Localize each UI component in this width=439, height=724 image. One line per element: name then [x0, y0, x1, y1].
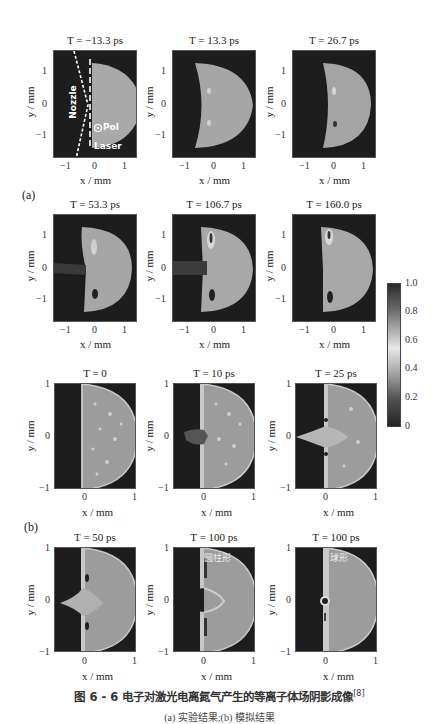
xtick: 0 — [331, 324, 336, 335]
ytick: 1 — [45, 542, 50, 553]
xtick: −1 — [299, 324, 310, 335]
xtick: 1 — [122, 324, 127, 335]
y-axis-label: y / mm — [263, 86, 275, 117]
figure-caption: 图 6 - 6 电子对激光电离氮气产生的等离子体场阴影成像[8] — [0, 688, 439, 704]
ytick: 0 — [161, 262, 166, 273]
colorbar-tick: 0.4 — [405, 362, 418, 373]
plasma-image — [173, 51, 256, 158]
colorbar-tick: 0.6 — [405, 334, 418, 345]
xtick: 0 — [82, 655, 87, 666]
sphere-annotation: 球形 — [330, 551, 348, 564]
ytick: 1 — [161, 229, 166, 240]
x-axis-label: x / mm — [80, 338, 111, 350]
ytick: −1 — [158, 482, 169, 493]
colorbar-tick: 0.2 — [405, 391, 418, 402]
panel-title: T = 100 ps — [173, 531, 255, 543]
panel-title: T = 26.7 ps — [292, 34, 376, 46]
ytick: 0 — [281, 98, 286, 109]
ytick: −1 — [155, 129, 166, 140]
xtick: −1 — [299, 160, 310, 171]
shadowgraph-image — [292, 50, 376, 158]
laser-label: Laser — [94, 141, 122, 151]
y-axis-label: y / mm — [24, 86, 36, 117]
xtick: 1 — [361, 160, 366, 171]
ytick: 0 — [286, 430, 291, 441]
x-axis-label: x / mm — [323, 506, 354, 518]
xtick: 1 — [373, 655, 378, 666]
x-axis-label: x / mm — [80, 174, 111, 186]
ytick: 1 — [164, 542, 169, 553]
ytick: 1 — [164, 378, 169, 389]
ytick: 0 — [45, 430, 50, 441]
ytick: −1 — [280, 482, 291, 493]
nozzle-label: Nozzle — [68, 85, 78, 118]
y-axis-label: y / mm — [263, 250, 275, 281]
ytick: 0 — [161, 98, 166, 109]
ytick: 0 — [164, 430, 169, 441]
xtick: 0 — [331, 160, 336, 171]
x-axis-label: x / mm — [82, 670, 113, 682]
simulation-image: 圆柱形 — [173, 547, 255, 652]
ytick: 0 — [42, 98, 47, 109]
xtick: −1 — [179, 324, 190, 335]
simulation-image — [173, 383, 255, 489]
panel-title: T = 10 ps — [173, 367, 255, 379]
ytick: 1 — [42, 229, 47, 240]
x-axis-label: x / mm — [323, 670, 354, 682]
simulation-image: 球形 — [295, 547, 377, 652]
simulation-image — [54, 383, 136, 489]
ytick: 1 — [281, 65, 286, 76]
xtick: 0 — [92, 324, 97, 335]
ytick: 1 — [42, 65, 47, 76]
simulation-image — [54, 547, 136, 652]
xtick: 0 — [82, 491, 87, 502]
xtick: 0 — [92, 160, 97, 171]
x-axis-label: x / mm — [82, 506, 113, 518]
colorbar-gradient — [387, 283, 401, 427]
part-b-label: (b) — [24, 520, 38, 535]
caption-reference: [8] — [353, 689, 364, 698]
y-axis-label: y / mm — [24, 584, 36, 615]
panel-title: T = 50 ps — [54, 531, 136, 543]
ytick: −1 — [39, 646, 50, 657]
shadowgraph-image — [172, 214, 256, 322]
y-axis-label: y / mm — [24, 250, 36, 281]
xtick: 1 — [241, 324, 246, 335]
x-axis-label: x / mm — [319, 174, 350, 186]
xtick: 1 — [241, 160, 246, 171]
xtick: 0 — [211, 324, 216, 335]
xtick: 1 — [132, 655, 137, 666]
x-axis-label: x / mm — [199, 174, 230, 186]
xtick: 1 — [361, 324, 366, 335]
panel-title: T = 13.3 ps — [172, 34, 256, 46]
panel-title: T = 53.3 ps — [53, 198, 137, 210]
ytick: 1 — [286, 542, 291, 553]
ytick: −1 — [280, 646, 291, 657]
colorbar-tick: 1.0 — [405, 277, 418, 288]
y-axis-label: y / mm — [143, 250, 155, 281]
ytick: 0 — [45, 594, 50, 605]
ytick: −1 — [158, 646, 169, 657]
simulation-image — [295, 383, 377, 489]
ytick: −1 — [275, 293, 286, 304]
ytick: 0 — [42, 262, 47, 273]
plasma-image — [296, 384, 377, 489]
panel-title: T = 25 ps — [295, 367, 377, 379]
xtick: −1 — [60, 160, 71, 171]
panel-title: T = 160.0 ps — [292, 198, 376, 210]
panel-title: T = 106.7 ps — [172, 198, 256, 210]
ytick: 1 — [45, 378, 50, 389]
xtick: −1 — [179, 160, 190, 171]
ytick: 0 — [164, 594, 169, 605]
xtick: 1 — [373, 491, 378, 502]
ytick: 0 — [281, 262, 286, 273]
ytick: 1 — [281, 229, 286, 240]
shadowgraph-image: Nozzle Pol Laser — [53, 50, 137, 158]
pol-label: Pol — [103, 122, 119, 132]
ytick: −1 — [39, 482, 50, 493]
xtick: 1 — [122, 160, 127, 171]
colorbar-tick: 0 — [405, 420, 410, 431]
ytick: 0 — [286, 594, 291, 605]
colorbar-tick: 0.8 — [405, 305, 418, 316]
x-axis-label: x / mm — [319, 338, 350, 350]
